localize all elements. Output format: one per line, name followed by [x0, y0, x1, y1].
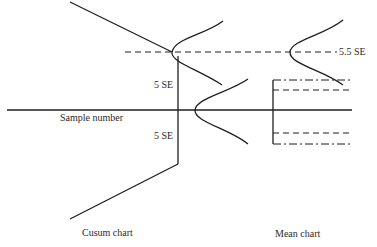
sample-number-label: Sample number — [60, 112, 123, 123]
vmask-upper-arm — [70, 2, 172, 52]
lower-5se-label: 5 SE — [154, 130, 173, 141]
mean-chart-caption: Mean chart — [275, 228, 320, 239]
vmask-lower-arm — [70, 164, 178, 219]
cusum-vs-mean-diagram — [0, 0, 377, 247]
upper-5se-label: 5 SE — [154, 79, 173, 90]
cusum-center-distribution — [195, 79, 248, 144]
cusum-chart-caption: Cusum chart — [82, 227, 133, 238]
cusum-upper-distribution — [172, 21, 223, 85]
limit-5-5se-label: 5.5 SE — [339, 46, 366, 57]
